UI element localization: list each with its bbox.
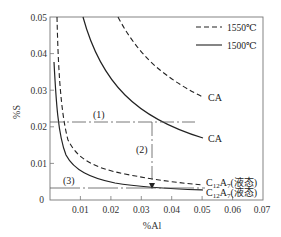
annotation-label-3: (3) xyxy=(63,175,75,187)
curve-c12a7-1550 xyxy=(57,17,203,185)
legend-label-1500: 1500℃ xyxy=(227,41,257,51)
chart: 0 0.01 0.02 0.03 0.04 0.05 0.01 0.02 0.0… xyxy=(0,0,281,237)
annotation-label-1: (1) xyxy=(93,109,105,121)
x-tick-0.04: 0.04 xyxy=(163,205,180,215)
x-tick-0.03: 0.03 xyxy=(133,205,150,215)
y-axis-ticks xyxy=(50,54,54,164)
x-tick-0.07: 0.07 xyxy=(254,205,271,215)
y-tick-0.01: 0.01 xyxy=(30,159,47,169)
y-tick-0.04: 0.04 xyxy=(30,49,47,59)
curve-ca-1550 xyxy=(118,17,203,97)
x-tick-0.01: 0.01 xyxy=(72,205,89,215)
y-tick-0.03: 0.03 xyxy=(30,86,47,96)
x-tick-0.06: 0.06 xyxy=(224,205,241,215)
y-tick-0.05: 0.05 xyxy=(30,13,47,23)
y-tick-0: 0 xyxy=(39,195,44,205)
annotation-label-2: (2) xyxy=(136,144,148,156)
y-axis-label: %S xyxy=(11,105,22,119)
curve-label-ca-1550: CA xyxy=(208,92,223,103)
legend-label-1550: 1550℃ xyxy=(227,23,257,33)
curve-c12a7-1500 xyxy=(54,62,203,190)
x-axis-label: %Al xyxy=(143,220,162,231)
curve-label-ca-1500: CA xyxy=(208,133,223,144)
x-tick-0.02: 0.02 xyxy=(103,205,120,215)
x-tick-0.05: 0.05 xyxy=(194,205,211,215)
y-tick-0.02: 0.02 xyxy=(30,122,47,132)
legend: 1550℃ 1500℃ xyxy=(196,23,257,51)
